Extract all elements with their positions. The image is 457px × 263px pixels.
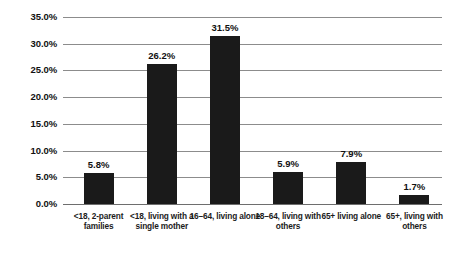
y-axis-tick-label: 35.0% [0,12,57,22]
y-axis-tick-label: 30.0% [0,39,57,49]
bar-value-label: 5.9% [253,159,323,169]
bar-value-label: 1.7% [379,182,449,192]
y-axis-tick-label: 15.0% [0,119,57,129]
bar[interactable] [147,64,177,204]
y-axis-tick-label: 20.0% [0,92,57,102]
bar-chart: 0.0%5.0%10.0%15.0%20.0%25.0%30.0%35.0% 5… [0,0,457,263]
bar-value-label: 26.2% [127,51,197,61]
plot-area [63,17,442,204]
category-label: 65+, living with others [376,211,452,232]
y-axis-tick-label: 10.0% [0,146,57,156]
y-axis-tick-label: 0.0% [0,199,57,209]
bar[interactable] [399,195,429,204]
bar-value-label: 31.5% [190,23,260,33]
bar[interactable] [84,173,114,204]
bar[interactable] [336,162,366,204]
y-axis-tick-label: 25.0% [0,66,57,76]
y-axis-tick-label: 5.0% [0,173,57,183]
bar-value-label: 5.8% [64,160,134,170]
axis-baseline [63,204,442,205]
bar[interactable] [210,36,240,204]
bar-value-label: 7.9% [316,149,386,159]
bar[interactable] [273,172,303,204]
